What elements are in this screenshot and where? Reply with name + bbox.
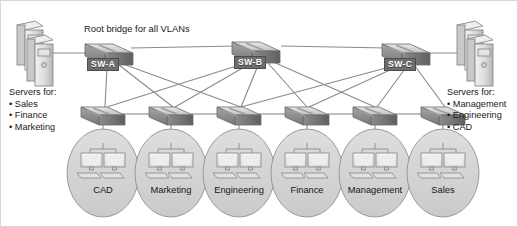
core-switch-label-swc: SW-C [384, 58, 416, 71]
vlan-label-sales: Sales [431, 185, 454, 195]
vlan-label-cad: CAD [93, 185, 113, 195]
network-diagram: Root bridge for all VLANs SW-A SW-B SW-C… [0, 0, 518, 227]
left-servers-item-1: • Finance [9, 110, 56, 122]
vlan-label-finance: Finance [290, 185, 323, 195]
right-servers-header: Servers for: [447, 87, 506, 99]
left-servers-header: Servers for: [9, 87, 56, 99]
root-bridge-note: Root bridge for all VLANs [84, 23, 190, 34]
right-servers-caption: Servers for: • Management • Engineering … [447, 87, 506, 133]
core-switch-label-swa: SW-A [87, 58, 119, 71]
left-servers-caption: Servers for: • Sales • Finance • Marketi… [9, 87, 56, 133]
right-servers-item-1: • Engineering [447, 110, 506, 122]
vlan-label-management: Management [348, 185, 402, 195]
right-servers-item-0: • Management [447, 99, 506, 111]
left-servers-item-2: • Marketing [9, 122, 56, 134]
left-servers-item-0: • Sales [9, 99, 56, 111]
vlan-label-marketing: Marketing [151, 185, 192, 195]
vlan-label-engineering: Engineering [214, 185, 264, 195]
core-switch-label-swb: SW-B [234, 56, 266, 69]
right-servers-item-2: • CAD [447, 122, 506, 134]
